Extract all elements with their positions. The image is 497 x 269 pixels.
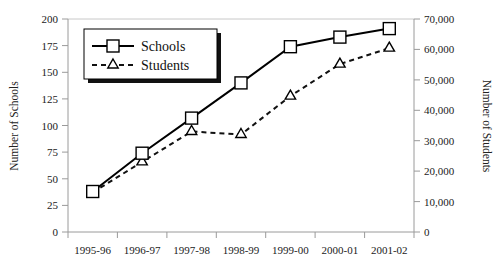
left-axis-title: Number of Schools — [8, 81, 20, 171]
left-tick-label-0: 0 — [53, 226, 59, 238]
schools-marker-1 — [136, 147, 148, 159]
schools-marker-5 — [334, 31, 346, 43]
category-label-4: 1999-00 — [272, 244, 309, 256]
left-tick-label-50: 50 — [47, 173, 59, 185]
category-label-3: 1998-99 — [223, 244, 260, 256]
right-tick-labels: 0 10,000 20,000 30,000 40,000 50,000 60,… — [424, 13, 455, 238]
x-axis-ticks — [68, 232, 414, 238]
right-tick-label-10000: 10,000 — [424, 196, 455, 208]
line-chart: 0 25 50 75 100 125 150 175 200 0 10,000 … — [0, 0, 497, 269]
schools-marker-2 — [186, 112, 198, 124]
right-tick-label-30000: 30,000 — [424, 135, 455, 147]
students-marker-4 — [285, 90, 295, 99]
square-marker — [107, 40, 119, 52]
schools-marker-3 — [235, 77, 247, 89]
right-tick-label-40000: 40,000 — [424, 104, 455, 116]
schools-marker-0 — [87, 186, 99, 198]
right-tick-label-60000: 60,000 — [424, 43, 455, 55]
category-labels: 1995-96 1996-97 1997-98 1998-99 1999-00 … — [74, 244, 407, 256]
students-marker-2 — [186, 126, 196, 135]
left-tick-label-75: 75 — [47, 146, 59, 158]
left-tick-label-125: 125 — [42, 93, 59, 105]
right-tick-label-70000: 70,000 — [424, 13, 455, 25]
legend-label-schools: Schools — [141, 39, 185, 54]
right-tick-label-0: 0 — [424, 226, 430, 238]
schools-marker-6 — [383, 23, 395, 35]
left-tick-label-150: 150 — [42, 66, 59, 78]
left-tick-label-100: 100 — [42, 120, 59, 132]
schools-marker-4 — [284, 41, 296, 53]
left-axis-ticks — [62, 19, 68, 232]
category-label-5: 2000-01 — [322, 244, 359, 256]
legend-label-students: Students — [141, 58, 189, 73]
right-tick-label-20000: 20,000 — [424, 165, 455, 177]
left-tick-label-175: 175 — [42, 40, 59, 52]
students-marker-3 — [236, 129, 246, 138]
left-tick-labels: 0 25 50 75 100 125 150 175 200 — [42, 13, 59, 238]
left-tick-label-200: 200 — [42, 13, 59, 25]
category-label-6: 2001-02 — [371, 244, 408, 256]
chart-container: 0 25 50 75 100 125 150 175 200 0 10,000 … — [0, 0, 497, 269]
category-label-1: 1996-97 — [124, 244, 161, 256]
category-label-2: 1997-98 — [173, 244, 210, 256]
chart-legend[interactable]: Schools Students — [84, 29, 221, 83]
right-axis-title: Number of Students — [481, 80, 493, 173]
left-tick-label-25: 25 — [47, 199, 59, 211]
right-tick-label-50000: 50,000 — [424, 74, 455, 86]
students-marker-6 — [384, 42, 394, 51]
right-axis-ticks — [414, 19, 420, 232]
category-label-0: 1995-96 — [74, 244, 111, 256]
